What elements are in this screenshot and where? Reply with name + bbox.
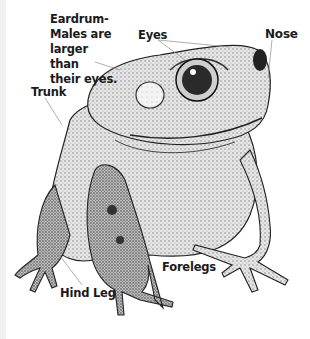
label-nose: Nose [265, 27, 298, 42]
label-eyes: Eyes [138, 28, 167, 43]
label-forelegs: Forelegs [162, 260, 216, 275]
toad-illustration [0, 0, 310, 339]
label-hind-leg: Hind Leg [60, 286, 116, 301]
toad-eye-highlight [190, 69, 196, 75]
toad-nostril [253, 49, 267, 71]
label-eardrum-note-1: Males are [50, 27, 120, 42]
toad-eardrum [136, 82, 164, 108]
label-eardrum: Eardrum- Males are larger than their eye… [50, 12, 120, 87]
label-eardrum-title: Eardrum- [50, 12, 120, 27]
toad-eye-iris [182, 65, 212, 95]
label-trunk: Trunk [31, 85, 66, 100]
label-eardrum-note-2: larger than [50, 42, 120, 72]
